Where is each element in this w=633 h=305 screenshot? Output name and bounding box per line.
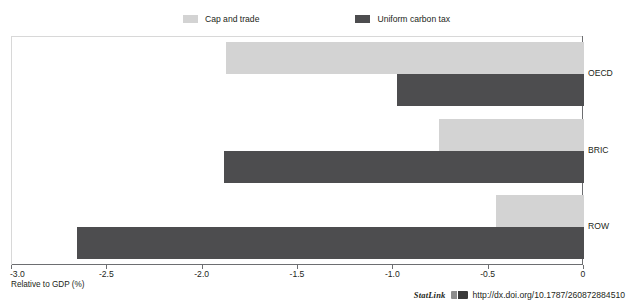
bar-oecd-uniform-carbon-tax	[397, 74, 584, 106]
x-tick-label: -1.0	[385, 270, 400, 279]
bar-group-row	[12, 195, 582, 227]
statlink-icon	[451, 291, 468, 299]
legend-item-uniform-carbon-tax: Uniform carbon tax	[355, 15, 450, 24]
x-tick-label: -3.0	[10, 270, 25, 279]
plot-top-rule	[12, 36, 582, 37]
legend-label-uniform-carbon-tax: Uniform carbon tax	[377, 15, 450, 24]
legend-swatch-uniform-carbon-tax	[355, 15, 370, 23]
bar-group-row	[12, 227, 582, 259]
chart-legend: Cap and trade Uniform carbon tax	[0, 12, 633, 26]
legend-item-cap-and-trade: Cap and trade	[183, 15, 259, 24]
bar-group-bric	[12, 119, 582, 151]
bar-bric-cap-and-trade	[439, 119, 584, 151]
bar-group-oecd	[12, 42, 582, 74]
statlink-url[interactable]: http://dx.doi.org/10.1787/260872884510	[473, 290, 625, 300]
legend-label-cap-and-trade: Cap and trade	[205, 15, 259, 24]
category-label-bric: BRIC	[588, 146, 609, 155]
category-label-oecd: OECD	[588, 69, 613, 78]
x-tick-label: -2.0	[194, 270, 209, 279]
category-label-row: ROW	[588, 222, 609, 231]
x-tick-label: -0.5	[480, 270, 495, 279]
statlink-label: StatLink	[414, 290, 446, 300]
x-tick-label: 0	[581, 270, 586, 279]
x-tick-label: -2.5	[99, 270, 114, 279]
bar-oecd-cap-and-trade	[226, 42, 584, 74]
bar-row-cap-and-trade	[496, 195, 584, 227]
x-tick-label: -1.5	[290, 270, 305, 279]
bar-group-oecd	[12, 74, 582, 106]
bar-group-bric	[12, 151, 582, 183]
chart-title	[0, 0, 633, 2]
legend-swatch-cap-and-trade	[183, 15, 198, 23]
statlink-footer: StatLink http://dx.doi.org/10.1787/26087…	[0, 288, 633, 302]
bar-row-uniform-carbon-tax	[77, 227, 584, 259]
plot-area	[11, 36, 583, 265]
bar-bric-uniform-carbon-tax	[224, 151, 584, 183]
